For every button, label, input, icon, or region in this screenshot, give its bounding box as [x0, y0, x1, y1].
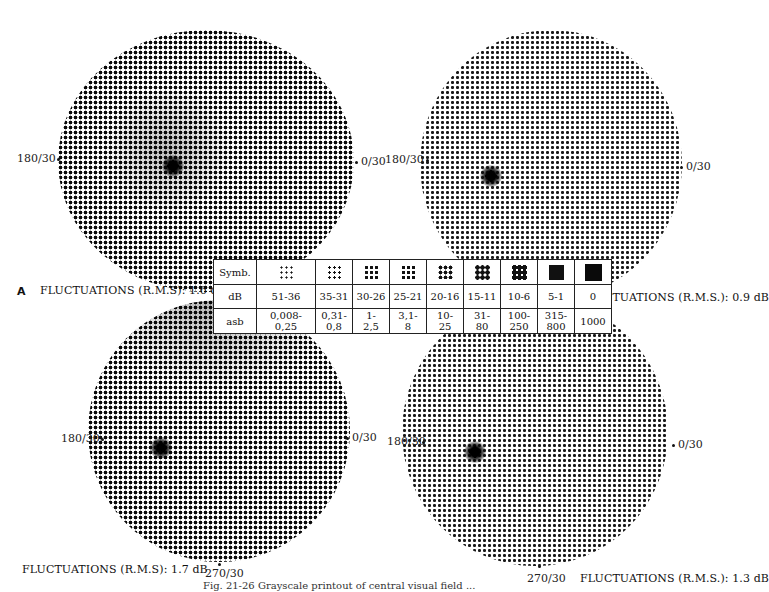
tick-0 — [355, 161, 358, 164]
symbol-cell — [257, 260, 316, 285]
label-180-30: 180/30 — [17, 152, 56, 165]
asb-line-2: 250 — [504, 321, 534, 332]
fixation-cross-icon — [469, 446, 481, 458]
label-0-30: 0/30 — [686, 160, 711, 173]
label-0-30: 0/30 — [678, 438, 703, 451]
asb-line-1: 1- — [356, 310, 386, 321]
asb-line-2: 0,25 — [260, 321, 312, 332]
symbol-density-9-icon — [585, 264, 602, 281]
db-cell: 15-11 — [464, 285, 501, 309]
symbol-cell — [390, 260, 427, 285]
visual-field-top-left — [58, 30, 354, 292]
fixation-cross-icon — [167, 160, 179, 172]
db-cell: 25-21 — [390, 285, 427, 309]
asb-line-1: 100- — [504, 310, 534, 321]
legend-row-symbols: Symb. — [214, 260, 612, 285]
symbol-density-3-icon — [364, 265, 378, 279]
figure-caption: Fig. 21-26 Grayscale printout of central… — [203, 580, 475, 592]
asb-line-2: 0,8 — [319, 321, 349, 332]
fluctuations-top-left: FLUCTUATIONS (R.M.S): 1.6 dB — [40, 284, 226, 297]
db-cell: 35-31 — [316, 285, 353, 309]
db-cell: 0 — [575, 285, 612, 309]
asb-line-1: 315- — [541, 310, 571, 321]
row-label-symb: Symb. — [214, 260, 257, 285]
symbol-density-7-icon — [512, 265, 527, 280]
asb-line-1: 0,008- — [260, 310, 312, 321]
symbol-density-4-icon — [401, 265, 415, 279]
fluctuations-bottom-left: FLUCTUATIONS (R.M.S): 1.7 dB — [22, 563, 208, 576]
asb-line-2: 80 — [467, 321, 497, 332]
visual-field-bottom-right — [402, 298, 668, 566]
depression-shade — [98, 90, 238, 210]
asb-line-1: 0,31- — [319, 310, 349, 321]
db-cell: 10-6 — [501, 285, 538, 309]
label-180-30: 180/30 — [61, 432, 100, 445]
symbol-cell — [501, 260, 538, 285]
label-0-30: 0/30 — [352, 431, 377, 444]
symbol-cell — [538, 260, 575, 285]
asb-cell: 31-80 — [464, 309, 501, 334]
symbol-cell — [427, 260, 464, 285]
tick-180 — [57, 158, 60, 161]
tick-270 — [538, 565, 541, 568]
tick-180 — [101, 438, 104, 441]
db-cell: 51-36 — [257, 285, 316, 309]
grayscale-legend-table: Symb. dB 51-36 35-31 30-26 25-21 20-16 1… — [213, 259, 612, 334]
symbol-density-6-icon — [475, 265, 490, 280]
row-label-asb: asb — [214, 309, 257, 334]
fixation-cross-icon — [485, 170, 497, 182]
symbol-density-2-icon — [327, 265, 341, 279]
asb-cell: 0,31-0,8 — [316, 309, 353, 334]
asb-cell: 10-25 — [427, 309, 464, 334]
asb-line-1: 31- — [467, 310, 497, 321]
fluctuations-bottom-right: FLUCTUATIONS (R.M.S.): 1.3 dB — [580, 572, 769, 585]
asb-cell: 315-800 — [538, 309, 575, 334]
symbol-cell — [353, 260, 390, 285]
asb-line-1: 10- — [430, 310, 460, 321]
label-0-30: 0/30 — [361, 155, 386, 168]
fixation-cross-icon — [155, 442, 167, 454]
tick-0 — [672, 444, 675, 447]
label-270-30: 270/30 — [527, 572, 566, 585]
panel-letter: A — [17, 285, 26, 298]
asb-cell: 1000 — [575, 309, 612, 334]
tick-270 — [218, 563, 221, 566]
asb-line-2: 8 — [393, 321, 423, 332]
db-cell: 20-16 — [427, 285, 464, 309]
db-cell: 30-26 — [353, 285, 390, 309]
symbol-cell — [575, 260, 612, 285]
asb-cell: 3,1-8 — [390, 309, 427, 334]
label-180-30: 180/30 — [387, 435, 426, 448]
tick-180 — [426, 159, 429, 162]
asb-line-2: 800 — [541, 321, 571, 332]
tick-0 — [680, 166, 683, 169]
symbol-cell — [464, 260, 501, 285]
asb-line-2: 2,5 — [356, 321, 386, 332]
label-270-30: 270/30 — [205, 567, 244, 580]
tick-0 — [346, 437, 349, 440]
db-cell: 5-1 — [538, 285, 575, 309]
asb-cell: 100-250 — [501, 309, 538, 334]
symbol-cell — [316, 260, 353, 285]
row-label-db: dB — [214, 285, 257, 309]
asb-line-1: 3,1- — [393, 310, 423, 321]
visual-field-bottom-left — [88, 300, 350, 562]
symbol-density-1-icon — [279, 265, 293, 279]
legend-row-db: dB 51-36 35-31 30-26 25-21 20-16 15-11 1… — [214, 285, 612, 309]
legend-row-asb: asb 0,008-0,25 0,31-0,8 1-2,5 3,1-8 10-2… — [214, 309, 612, 334]
asb-cell: 1-2,5 — [353, 309, 390, 334]
asb-line-2: 25 — [430, 321, 460, 332]
asb-cell: 0,008-0,25 — [257, 309, 316, 334]
symbol-density-8-icon — [549, 265, 564, 280]
symbol-density-5-icon — [438, 265, 453, 279]
label-180-30: 180/30 — [385, 153, 424, 166]
visual-field-top-right — [420, 30, 682, 298]
